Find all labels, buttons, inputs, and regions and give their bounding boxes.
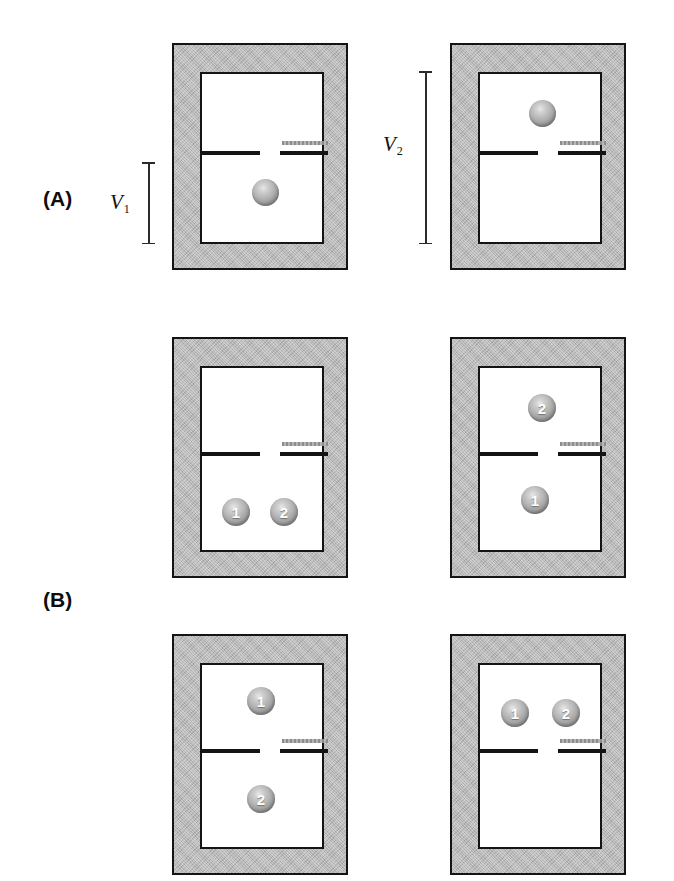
measure-label-v1-subscript: 1 xyxy=(124,202,130,216)
particle-label: 1 xyxy=(531,493,539,508)
partition-left-bar xyxy=(200,749,260,753)
partition-left-bar xyxy=(200,151,260,155)
partition-right-bar xyxy=(280,452,328,456)
particle-label: 2 xyxy=(538,401,546,416)
partition-right-bar xyxy=(558,151,606,155)
particle: 1 xyxy=(247,687,275,715)
particle-label: 2 xyxy=(280,505,288,520)
panel-label-b: (B) xyxy=(43,588,72,612)
particle xyxy=(252,179,279,206)
particle: 1 xyxy=(222,498,250,526)
particle xyxy=(529,100,556,127)
partition-slider-bar xyxy=(282,141,328,145)
particle-label: 1 xyxy=(257,694,265,709)
measure-stem xyxy=(425,71,427,244)
partition-slider-bar xyxy=(560,141,606,145)
partition-left-bar xyxy=(478,452,538,456)
measure-label-v2-letter: V xyxy=(383,132,396,156)
vessel-b-row1-right: 2 1 xyxy=(450,337,626,578)
measure-stem xyxy=(148,162,150,244)
partition-left-bar xyxy=(478,151,538,155)
vessel-b-row2-left: 1 2 xyxy=(172,634,348,875)
vessel-b-row1-left: 1 2 xyxy=(172,337,348,578)
measure-label-v1-letter: V xyxy=(110,190,123,214)
particle-label: 1 xyxy=(511,706,519,721)
measure-bracket-v2 xyxy=(419,71,432,244)
partition-slider-bar xyxy=(282,739,328,743)
particle: 2 xyxy=(247,785,275,813)
vessel-b-row2-right-interior: 1 2 xyxy=(478,663,602,849)
particle: 1 xyxy=(501,699,529,727)
vessel-b-row2-left-interior: 1 2 xyxy=(200,663,324,849)
particle: 2 xyxy=(270,498,298,526)
particle: 1 xyxy=(521,486,549,514)
particle: 2 xyxy=(552,699,580,727)
partition-right-bar xyxy=(558,749,606,753)
partition-right-bar xyxy=(280,151,328,155)
vessel-b-row1-right-interior: 2 1 xyxy=(478,366,602,552)
vessel-b-row1-left-interior: 1 2 xyxy=(200,366,324,552)
measure-label-v1: V1 xyxy=(110,190,129,215)
measure-label-v2-subscript: 2 xyxy=(397,144,403,158)
measure-cap-bottom xyxy=(419,243,432,245)
particle-label: 2 xyxy=(562,706,570,721)
particle-label: 2 xyxy=(257,792,265,807)
vessel-a-left xyxy=(172,43,348,270)
measure-cap-bottom xyxy=(142,243,155,245)
vessel-a-left-interior xyxy=(200,72,324,244)
partition-slider-bar xyxy=(560,442,606,446)
partition-right-bar xyxy=(280,749,328,753)
particle-label: 1 xyxy=(232,505,240,520)
partition-slider-bar xyxy=(560,739,606,743)
partition-right-bar xyxy=(558,452,606,456)
figure-canvas: (A) V1 V2 (B xyxy=(0,0,674,881)
partition-left-bar xyxy=(478,749,538,753)
panel-label-a: (A) xyxy=(43,187,72,211)
partition-left-bar xyxy=(200,452,260,456)
vessel-a-right xyxy=(450,43,626,270)
measure-bracket-v1 xyxy=(142,162,155,244)
particle: 2 xyxy=(528,394,556,422)
vessel-a-right-interior xyxy=(478,72,602,244)
measure-label-v2: V2 xyxy=(383,132,402,157)
vessel-b-row2-right: 1 2 xyxy=(450,634,626,875)
partition-slider-bar xyxy=(282,442,328,446)
